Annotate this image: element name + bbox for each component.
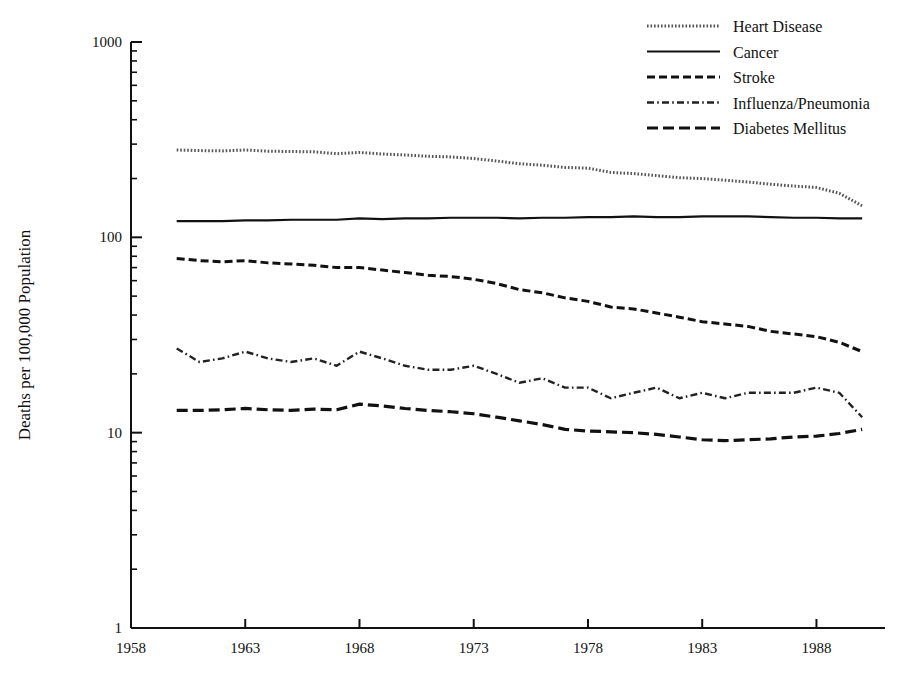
x-tick-label: 1958 (116, 640, 146, 656)
x-tick-label: 1968 (344, 640, 374, 656)
chart-figure: 1000100101 1958196319681973197819831988 … (0, 0, 911, 683)
legend-label: Cancer (733, 44, 779, 61)
x-tick-label: 1983 (687, 640, 717, 656)
mortality-trends-chart: 1000100101 1958196319681973197819831988 … (0, 0, 911, 683)
x-tick-label: 1988 (801, 640, 831, 656)
legend-label: Influenza/Pneumonia (733, 95, 870, 112)
legend-label: Diabetes Mellitus (733, 120, 846, 137)
x-tick-label: 1973 (459, 640, 489, 656)
y-tick-label: 1 (115, 620, 123, 636)
y-axis-title: Deaths per 100,000 Population (15, 229, 34, 440)
y-tick-label: 1000 (92, 34, 122, 50)
x-tick-label: 1963 (230, 640, 260, 656)
y-tick-label: 100 (100, 229, 123, 245)
y-tick-label: 10 (107, 425, 122, 441)
x-tick-label: 1978 (573, 640, 603, 656)
legend-label: Stroke (733, 69, 775, 86)
legend-label: Heart Disease (733, 18, 822, 35)
